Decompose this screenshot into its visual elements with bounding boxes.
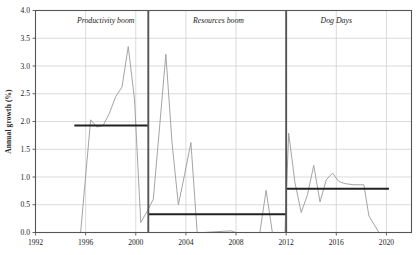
average-lines-layer — [74, 125, 389, 214]
segment-annotations: Productivity boomResources boomDog Days — [76, 16, 352, 25]
x-tick-label: 2000 — [128, 238, 143, 247]
x-tick-label: 2004 — [178, 238, 193, 247]
segment-label: Dog Days — [320, 16, 352, 25]
y-axis-title: Annual growth (%) — [4, 89, 13, 154]
y-tick-label: 2.0 — [21, 117, 31, 126]
y-tick-label: 4.0 — [21, 6, 31, 15]
x-axis-ticks: 19921996200020042008201220162020 — [28, 233, 394, 247]
y-tick-label: 2.5 — [21, 89, 31, 98]
y-tick-label: 3.0 — [21, 62, 31, 71]
segment-label: Resources boom — [192, 16, 244, 25]
y-axis-ticks: 0.00.51.01.52.02.53.03.54.0 — [21, 6, 36, 237]
x-tick-label: 1992 — [28, 238, 43, 247]
x-tick-label: 2020 — [379, 238, 394, 247]
line-chart: 0.00.51.01.52.02.53.03.54.0 199219962000… — [0, 0, 419, 255]
x-tick-label: 2008 — [228, 238, 243, 247]
segment-label: Productivity boom — [76, 16, 135, 25]
y-tick-label: 0.5 — [21, 200, 31, 209]
y-tick-label: 1.5 — [21, 145, 31, 154]
x-tick-label: 1996 — [78, 238, 93, 247]
y-tick-label: 3.5 — [21, 34, 31, 43]
x-tick-label: 2012 — [279, 238, 294, 247]
y-axis-label: Annual growth (%) — [4, 89, 13, 154]
y-tick-label: 1.0 — [21, 173, 31, 182]
y-tick-label: 0.0 — [21, 228, 31, 237]
x-tick-label: 2016 — [329, 238, 344, 247]
chart-container: 0.00.51.01.52.02.53.03.54.0 199219962000… — [0, 0, 419, 255]
